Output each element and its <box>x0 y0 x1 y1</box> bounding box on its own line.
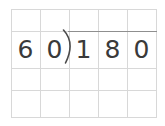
dividend-digit-ones: 0 <box>127 37 156 62</box>
grid-line-horizontal <box>11 9 157 10</box>
grid-line-horizontal <box>11 68 157 69</box>
grid-line-horizontal <box>11 90 157 91</box>
grid-line-vertical <box>127 9 128 118</box>
divisor-digit-tens: 6 <box>11 37 40 62</box>
grid-line-vertical <box>69 9 70 118</box>
dividend-digit-hundreds: 1 <box>69 37 98 62</box>
divisor-digit-ones: 0 <box>40 37 69 62</box>
grid-line-vertical <box>98 9 99 118</box>
division-bar <box>68 31 157 32</box>
dividend-digit-tens: 8 <box>98 37 127 62</box>
grid-line-vertical <box>156 9 157 118</box>
grid-line-vertical <box>40 9 41 118</box>
long-division-worksheet: 6 0 1 8 0 <box>0 0 165 126</box>
grid-line-vertical <box>11 9 12 118</box>
grid-line-horizontal <box>11 117 157 118</box>
